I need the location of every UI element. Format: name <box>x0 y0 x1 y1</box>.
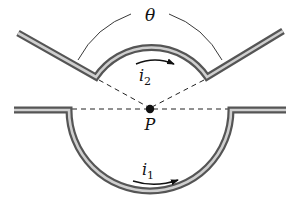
current-arrow-i1 <box>133 180 178 184</box>
theta-label: θ <box>145 5 155 25</box>
current-arrow-i2 <box>136 60 174 64</box>
current-label-i1: i1 <box>142 160 154 182</box>
point-p-dot <box>146 105 154 113</box>
wire-diagram: θ i2 P i1 <box>0 0 303 218</box>
upper-wire <box>18 31 283 77</box>
radius-dashed-right <box>150 80 204 108</box>
point-p-label: P <box>144 115 156 134</box>
current-label-i2: i2 <box>139 66 151 88</box>
